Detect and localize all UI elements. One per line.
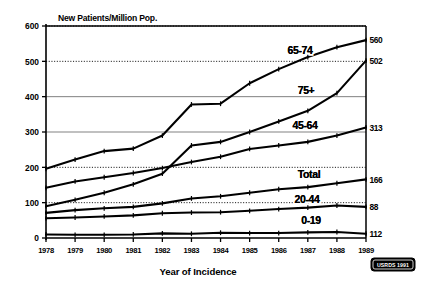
series-line-75+ xyxy=(46,61,366,207)
series-label-0-19: 0-19 xyxy=(301,214,321,226)
series-end-value-Total: 166 xyxy=(370,175,384,185)
x-axis-tick-label: 1980 xyxy=(96,246,112,255)
x-axis-tick-label: 1984 xyxy=(213,246,230,255)
y-axis-tick-label: 500 xyxy=(25,57,39,67)
y-axis-tick-label: 100 xyxy=(25,198,39,208)
series-end-value-0-19: 112 xyxy=(370,229,383,239)
x-axis-tick-label: 1981 xyxy=(125,246,142,255)
y-axis-tick-label: 400 xyxy=(25,92,39,102)
series-label-20-44: 20-44 xyxy=(295,193,320,205)
x-axis-tick-label: 1983 xyxy=(184,246,200,255)
line-chart: 0100200300400500600New Patients/Million … xyxy=(0,0,421,290)
x-axis-tick-label: 1985 xyxy=(242,246,259,255)
y-axis-tick-label: 300 xyxy=(25,127,39,137)
series-line-0-19 xyxy=(46,232,366,235)
y-axis-title: New Patients/Million Pop. xyxy=(58,13,157,23)
source-badge-label: USRDS 1991 xyxy=(377,262,409,268)
y-axis-tick-label: 200 xyxy=(25,163,39,173)
series-label-65-74: 65-74 xyxy=(288,44,313,56)
x-axis-title: Year of Incidence xyxy=(159,266,236,277)
series-end-value-75+: 502 xyxy=(370,56,384,66)
series-label-45-64: 45-64 xyxy=(293,119,318,131)
x-axis-tick-label: 1979 xyxy=(67,246,83,255)
chart-figure: 0100200300400500600New Patients/Million … xyxy=(0,0,421,290)
x-axis-tick-label: 1982 xyxy=(155,246,171,255)
x-axis-tick-label: 1986 xyxy=(271,246,287,255)
series-end-value-45-64: 313 xyxy=(370,123,384,133)
y-axis-tick-label: 0 xyxy=(34,233,39,243)
x-axis-tick-label: 1988 xyxy=(329,246,345,255)
x-axis-tick-label: 1987 xyxy=(300,246,316,255)
series-end-value-20-44: 88 xyxy=(370,202,379,212)
x-axis-tick-label: 1989 xyxy=(358,246,374,255)
series-label-Total: Total xyxy=(298,168,321,180)
y-axis-tick-label: 600 xyxy=(25,21,39,31)
series-end-value-65-74: 560 xyxy=(370,35,384,45)
series-label-75+: 75+ xyxy=(298,84,315,96)
x-axis-tick-label: 1978 xyxy=(38,246,54,255)
